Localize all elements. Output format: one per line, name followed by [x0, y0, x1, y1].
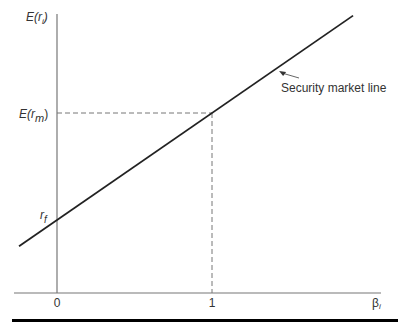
x-axis-label: βi	[372, 296, 381, 311]
security-market-line-chart: E(ri) E(rm) rf 0 1 βi Security market li…	[0, 0, 398, 322]
x-tick-label-0: 0	[54, 296, 61, 310]
y-tick-label-rf: rf	[40, 208, 48, 225]
security-market-line	[19, 16, 353, 247]
y-axis-label: E(ri)	[26, 10, 48, 26]
x-tick-label-1: 1	[209, 296, 216, 310]
y-tick-label-erm: E(rm)	[19, 107, 48, 124]
sml-annotation-label: Security market line	[281, 81, 387, 95]
